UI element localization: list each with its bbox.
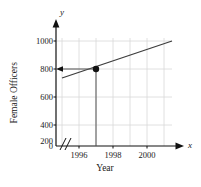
y-tick-label-1000: 1000	[18, 37, 53, 46]
y-tick-label-800: 800	[18, 65, 53, 74]
x-tick-label-2000: 2000	[132, 151, 162, 160]
y-axis-tip-label: y	[60, 8, 64, 17]
y-tick-label-400: 400	[18, 121, 53, 130]
x-tick-label-1998: 1998	[98, 151, 128, 160]
chart-figure: 1000 800 600 400 200 0 1996 1998 2000 y …	[0, 0, 201, 187]
y-tick-label-600: 600	[18, 93, 53, 102]
horizontal-arrow-to-y-axis	[56, 66, 96, 72]
x-axis	[56, 143, 184, 150]
y-axis-title: Female Officers	[10, 45, 20, 141]
grid-vertical	[62, 38, 164, 146]
x-axis-tip-label: x	[188, 141, 192, 150]
y-axis	[53, 19, 60, 146]
highlighted-point	[93, 66, 99, 72]
y-tick-label-0: 0	[18, 142, 53, 151]
x-tick-label-1996: 1996	[64, 151, 94, 160]
grid-horizontal	[56, 41, 172, 125]
x-axis-title: Year	[75, 164, 135, 174]
trend-line	[62, 41, 172, 78]
